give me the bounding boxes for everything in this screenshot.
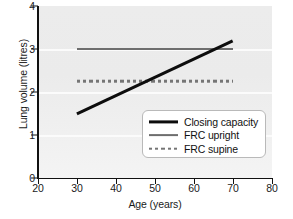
y-axis-title: Lung volume (litres): [17, 14, 29, 154]
legend-item-closing-capacity: Closing capacity: [143, 115, 265, 129]
x-axis-tick-label: 30: [65, 182, 89, 194]
y-axis-tick-label: 4: [15, 0, 35, 12]
x-axis-tick-label: 20: [26, 182, 50, 194]
x-axis-tick-label: 50: [143, 182, 167, 194]
legend-label: Closing capacity: [184, 116, 258, 128]
x-axis-tick-label: 80: [260, 182, 284, 194]
legend-line-swatch-icon: [149, 131, 178, 139]
legend-item-frc-supine: FRC supine: [143, 142, 265, 156]
y-axis-line: [37, 6, 39, 179]
legend-dotted-swatch-icon: [149, 145, 178, 153]
legend-label: FRC upright: [184, 129, 239, 141]
x-axis-tick-labels: 20304050607080: [0, 182, 293, 198]
gridline-y: [38, 92, 272, 94]
x-axis-tick-label: 40: [104, 182, 128, 194]
chart-figure: 01234 20304050607080 Lung volume (litres…: [0, 0, 293, 219]
legend-label: FRC supine: [184, 143, 238, 155]
legend-item-frc-upright: FRC upright: [143, 129, 265, 143]
legend-line-swatch-icon: [149, 118, 178, 126]
x-axis-tick-label: 70: [221, 182, 245, 194]
chart-legend: Closing capacity FRC upright FRC supine: [142, 110, 266, 158]
series-line-frc-supine: [77, 80, 233, 83]
x-axis-title: Age (years): [38, 198, 272, 210]
x-axis-tick-label: 60: [182, 182, 206, 194]
